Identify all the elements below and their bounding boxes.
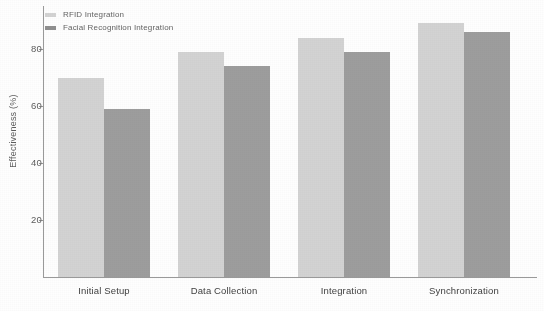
bar-rfid	[418, 23, 464, 277]
x-tick-label: Initial Setup	[44, 285, 164, 296]
legend-label-rfid: RFID Integration	[63, 10, 124, 19]
bar-facial	[104, 109, 150, 277]
y-tick-label: 20	[2, 214, 42, 225]
x-tick-label: Data Collection	[164, 285, 284, 296]
bar-facial	[224, 66, 270, 277]
bar-rfid	[178, 52, 224, 277]
bar-rfid	[58, 78, 104, 278]
bar-facial	[464, 32, 510, 277]
x-tick-label: Integration	[284, 285, 404, 296]
y-axis-line	[43, 6, 44, 278]
rfid-swatch-icon	[45, 13, 56, 17]
bar-facial	[344, 52, 390, 277]
legend-label-facial: Facial Recognition Integration	[63, 23, 173, 32]
y-axis-title: Effectiveness (%)	[8, 71, 18, 191]
legend-item-rfid: RFID Integration	[45, 9, 173, 20]
legend-item-facial: Facial Recognition Integration	[45, 22, 173, 33]
y-tick-label: 80	[2, 43, 42, 54]
chart-legend: RFID Integration Facial Recognition Inte…	[45, 9, 173, 35]
bar-chart: Effectiveness (%) 20406080 Initial Setup…	[0, 0, 544, 311]
bar-rfid	[298, 38, 344, 277]
x-axis-line	[43, 277, 537, 278]
x-tick-label: Synchronization	[404, 285, 524, 296]
y-tick-label: 60	[2, 100, 42, 111]
facial-swatch-icon	[45, 26, 56, 30]
y-tick-label: 40	[2, 157, 42, 168]
